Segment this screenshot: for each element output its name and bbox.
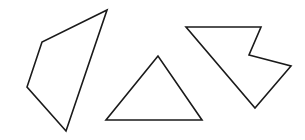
concave-pentagon-shape bbox=[186, 27, 291, 108]
quadrilateral-shape bbox=[27, 10, 107, 131]
triangle-shape bbox=[106, 56, 202, 120]
shapes-canvas bbox=[0, 0, 305, 140]
